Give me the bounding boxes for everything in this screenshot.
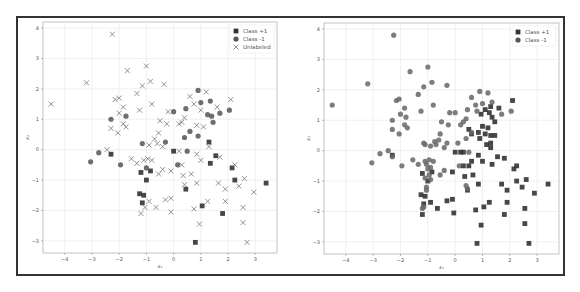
data-point: [416, 162, 421, 167]
data-point: [438, 131, 443, 136]
data-point: [118, 162, 123, 167]
y-tick-label: 0: [317, 147, 320, 153]
data-point: [492, 119, 497, 124]
data-point: [487, 200, 492, 205]
data-point: [488, 133, 493, 138]
data-point: [483, 132, 488, 137]
data-point: [438, 172, 443, 177]
data-point: [209, 114, 214, 119]
data-point: [439, 119, 444, 124]
data-point: [480, 159, 485, 164]
data-point: [446, 122, 451, 127]
data-point: [505, 200, 510, 205]
legend: Class +1Class -1: [512, 26, 556, 46]
data-point: [210, 120, 215, 125]
data-point: [182, 135, 187, 140]
y-tick-label: −2: [313, 208, 320, 214]
square-marker-icon: [234, 29, 239, 34]
data-point: [527, 241, 532, 246]
data-point: [481, 204, 486, 209]
data-point: [207, 140, 212, 145]
data-point: [522, 206, 527, 211]
data-point: [330, 102, 335, 107]
data-point: [88, 159, 93, 164]
data-point: [447, 110, 452, 115]
data-point: [453, 110, 458, 115]
data-point: [445, 198, 450, 203]
data-point: [510, 98, 515, 103]
data-point: [483, 107, 488, 112]
legend-label: Class -1: [525, 37, 547, 43]
data-point: [479, 223, 484, 228]
data-point: [365, 81, 370, 86]
data-point: [490, 162, 495, 167]
data-point: [423, 194, 428, 199]
data-point: [453, 150, 458, 155]
data-point: [391, 33, 396, 38]
data-point: [524, 177, 529, 182]
x-tick-label: −4: [342, 257, 349, 263]
data-point: [487, 110, 492, 115]
y-tick-label: −1: [313, 178, 320, 184]
data-point: [480, 101, 485, 106]
data-point: [424, 188, 429, 193]
data-point: [485, 90, 490, 95]
x-tick-label: 2: [508, 257, 511, 263]
data-point: [457, 163, 462, 168]
data-point: [444, 83, 449, 88]
data-point: [195, 88, 200, 93]
data-point: [183, 187, 188, 192]
data-point: [473, 208, 478, 213]
data-point: [495, 154, 500, 159]
data-point: [425, 64, 430, 69]
data-point: [488, 141, 493, 146]
data-point: [399, 163, 404, 168]
data-point: [198, 100, 203, 105]
data-point: [187, 129, 192, 134]
data-point: [208, 98, 213, 103]
data-point: [509, 109, 514, 114]
data-point: [171, 149, 176, 154]
data-point: [466, 163, 471, 168]
data-point: [185, 149, 190, 154]
data-point: [502, 212, 507, 217]
y-tick-label: −3: [32, 238, 39, 244]
data-point: [428, 200, 433, 205]
data-point: [462, 174, 467, 179]
data-point: [450, 170, 455, 175]
data-point: [474, 109, 479, 114]
figure-canvas: −4−3−2−10123−3−2−101234x₁x₂Class +1Class…: [0, 0, 580, 292]
data-point: [505, 188, 510, 193]
data-point: [193, 240, 198, 245]
data-point: [473, 102, 478, 107]
data-point: [390, 127, 395, 132]
data-point: [489, 99, 494, 104]
data-point: [429, 80, 434, 85]
data-point: [217, 111, 222, 116]
data-point: [486, 125, 491, 130]
y-tick-label: 2: [36, 86, 39, 92]
x-tick-label: 3: [536, 257, 539, 263]
data-point: [424, 162, 429, 167]
data-point: [522, 221, 527, 226]
data-point: [403, 115, 408, 120]
data-point: [420, 212, 425, 217]
y-tick-label: 3: [317, 56, 320, 62]
data-point: [123, 114, 128, 119]
scatter-plot-left: −4−3−2−10123−3−2−101234x₁x₂Class +1Class…: [24, 22, 277, 269]
data-point: [431, 159, 436, 164]
data-point: [428, 177, 433, 182]
data-point: [461, 150, 466, 155]
y-tick-label: −3: [313, 239, 320, 245]
data-point: [480, 124, 485, 129]
data-point: [476, 153, 481, 158]
data-point: [428, 143, 433, 148]
data-point: [405, 125, 410, 130]
square-marker-icon: [516, 30, 521, 35]
data-point: [546, 182, 551, 187]
x-tick-label: −3: [369, 257, 376, 263]
data-point: [398, 112, 403, 117]
data-point: [477, 136, 482, 141]
data-point: [469, 95, 474, 100]
data-point: [488, 145, 493, 150]
